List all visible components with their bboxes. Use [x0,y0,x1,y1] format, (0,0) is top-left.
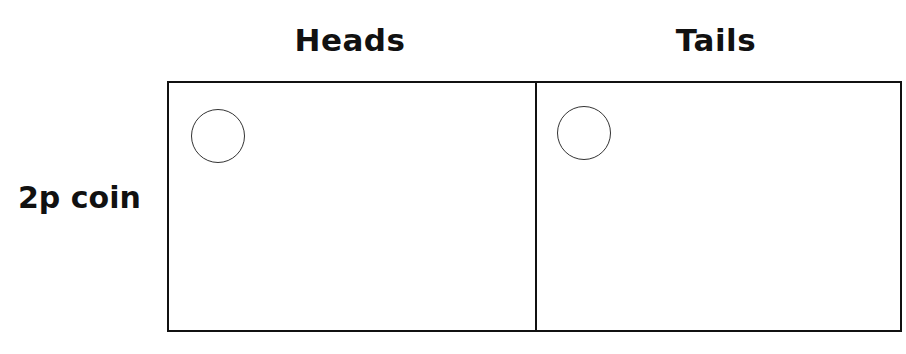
coin-circle-icon [557,106,611,160]
cell-heads [169,83,537,330]
column-header-tails: Tails [616,22,816,58]
coin-circle-icon [191,109,245,163]
cell-tails [537,83,900,330]
row-header-2p-coin: 2p coin [18,180,141,215]
column-header-heads: Heads [250,22,450,58]
coin-table [167,81,902,332]
